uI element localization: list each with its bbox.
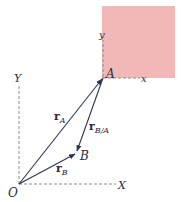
label-origin: O bbox=[8, 186, 18, 200]
r-b-a-sub: B/A bbox=[94, 126, 110, 135]
label-vector-r-b: rB bbox=[56, 162, 68, 177]
label-moving-y: y bbox=[98, 29, 105, 40]
label-vector-r-a: rA bbox=[54, 110, 66, 125]
r-b-sub: B bbox=[61, 168, 68, 177]
label-vector-r-b-a: rB/A bbox=[89, 120, 109, 135]
label-fixed-y: Y bbox=[14, 72, 23, 85]
relative-motion-diagram: O A B Y X y x rA rB/A rB bbox=[0, 0, 181, 202]
label-moving-x: x bbox=[141, 73, 147, 84]
label-fixed-x: X bbox=[117, 179, 127, 192]
label-point-a: A bbox=[105, 67, 115, 81]
r-a-sub: A bbox=[59, 116, 66, 125]
vector-r-b-a bbox=[77, 78, 103, 151]
label-point-b: B bbox=[79, 149, 89, 163]
